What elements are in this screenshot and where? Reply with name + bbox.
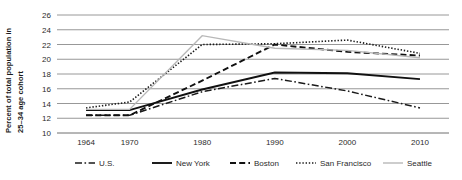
line-chart: Percent of total population in 25–34 age… — [0, 0, 462, 180]
legend-item-u-s[interactable]: U.S. — [75, 159, 115, 168]
y-tick-label: 14 — [42, 100, 51, 109]
y-tick-label: 20 — [42, 55, 51, 64]
legend-label-seattle: Seattle — [407, 159, 432, 168]
series-line-seattle — [86, 36, 420, 110]
y-tick-label: 22 — [42, 41, 51, 50]
legend-item-boston[interactable]: Boston — [230, 159, 279, 168]
legend-label-new-york: New York — [176, 159, 211, 168]
x-tick-label: 2010 — [411, 138, 429, 147]
legend-item-san-francisco[interactable]: San Francisco — [296, 159, 372, 168]
y-axis-title-line2: 25–34 age cohort — [16, 70, 25, 133]
y-tick-label: 12 — [42, 114, 51, 123]
y-tick-label: 10 — [42, 129, 51, 138]
y-tick-label: 24 — [42, 26, 51, 35]
y-tick-label: 26 — [42, 11, 51, 20]
chart-legend: U.S.New YorkBostonSan FranciscoSeattle — [75, 159, 432, 168]
legend-item-seattle[interactable]: Seattle — [383, 159, 432, 168]
legend-label-u-s: U.S. — [99, 159, 115, 168]
series-line-new-york — [86, 73, 420, 111]
chart-figure: Percent of total population in 25–34 age… — [0, 0, 462, 180]
y-axis-title-line1: Percent of total population in — [4, 27, 13, 133]
y-tick-label: 16 — [42, 85, 51, 94]
x-tick-label: 1970 — [121, 138, 139, 147]
series-line-boston — [86, 45, 420, 116]
x-tick-label: 1980 — [193, 138, 211, 147]
y-tick-labels: 101214161820222426 — [42, 11, 51, 138]
legend-label-san-francisco: San Francisco — [320, 159, 372, 168]
x-tick-labels: 196419701980199020002010 — [77, 138, 429, 147]
y-tick-label: 18 — [42, 70, 51, 79]
x-tick-label: 1990 — [266, 138, 284, 147]
y-axis-title: Percent of total population in 25–34 age… — [4, 27, 25, 133]
x-tick-label: 2000 — [338, 138, 356, 147]
x-tick-label: 1964 — [77, 138, 95, 147]
legend-item-new-york[interactable]: New York — [152, 159, 211, 168]
legend-label-boston: Boston — [254, 159, 279, 168]
